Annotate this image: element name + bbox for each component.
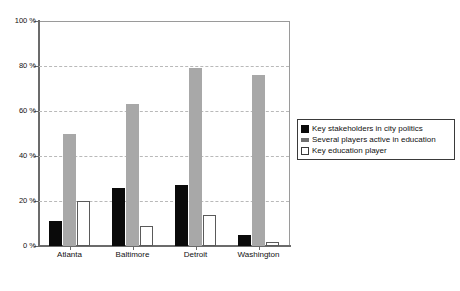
legend-swatch-icon [301, 125, 309, 133]
bar-detroit-series1 [189, 68, 202, 246]
y-tick-label-wrap: 60 % [0, 107, 36, 115]
legend-label: Key education player [312, 146, 387, 155]
bars-layer [38, 21, 290, 246]
y-tick-label-wrap: 100 % [0, 17, 36, 25]
y-tick-label-wrap: 80 % [0, 62, 36, 70]
bar-baltimore-series0 [112, 188, 125, 247]
y-tick-label: 0 % [4, 242, 36, 250]
bar-washington-series0 [238, 235, 251, 246]
y-tick-label-wrap: 40 % [0, 152, 36, 160]
bar-baltimore-series1 [126, 104, 139, 246]
bar-atlanta-series1 [63, 134, 76, 247]
bar-washington-series2 [266, 242, 279, 247]
y-tick-label: 60 % [4, 107, 36, 115]
y-tick-label-wrap: 0 % [0, 242, 36, 250]
y-tick-label: 20 % [4, 197, 36, 205]
y-tick-label: 80 % [4, 62, 36, 70]
legend-item-0: Key stakeholders in city politics [301, 123, 451, 134]
legend-swatch-icon [301, 138, 309, 142]
bar-detroit-series0 [175, 185, 188, 246]
y-tick-label: 40 % [4, 152, 36, 160]
bar-detroit-series2 [203, 215, 216, 247]
x-tick-label-washington: Washington [219, 250, 299, 260]
legend-item-2: Key education player [301, 145, 451, 156]
chart-legend: Key stakeholders in city politicsSeveral… [297, 119, 455, 160]
bar-washington-series1 [252, 75, 265, 246]
legend-label: Several players active in education [312, 135, 436, 144]
legend-label: Key stakeholders in city politics [312, 124, 423, 133]
legend-swatch-icon [301, 147, 309, 155]
bar-chart: 0 %20 %40 %60 %80 %100 % AtlantaBaltimor… [0, 0, 460, 291]
y-tick-label: 100 % [4, 17, 36, 25]
bar-baltimore-series2 [140, 226, 153, 246]
legend-item-1: Several players active in education [301, 134, 451, 145]
bar-atlanta-series0 [49, 221, 62, 246]
bar-atlanta-series2 [77, 201, 90, 246]
y-tick-label-wrap: 20 % [0, 197, 36, 205]
